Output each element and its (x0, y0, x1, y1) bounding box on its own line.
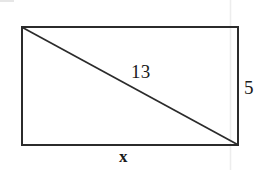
height-length-label: 5 (244, 78, 254, 97)
geometry-figure: 13 5 x (0, 0, 263, 170)
diagonal-length-label: 13 (131, 62, 150, 81)
figure-canvas (0, 0, 263, 170)
width-length-label: x (119, 148, 128, 165)
